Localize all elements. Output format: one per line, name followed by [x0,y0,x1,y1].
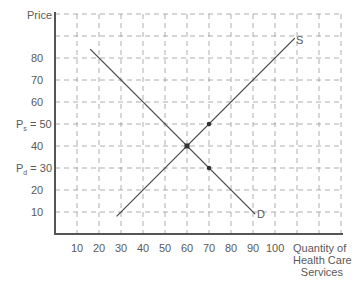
x-tick-100: 100 [266,242,284,254]
y-tick-40: 40 [31,140,43,152]
demand-label: D [257,208,265,220]
pd-point [207,166,212,171]
x-tick-30: 30 [115,242,127,254]
y-axis-label: Price [27,9,52,21]
x-tick-90: 90 [247,242,259,254]
x-tick-20: 20 [93,242,105,254]
supply-curve [117,38,295,216]
x-tick-80: 80 [225,242,237,254]
y-tick-60: 60 [31,96,43,108]
y-tick-70: 70 [31,74,43,86]
x-axis-label-line2: Health Care [293,254,343,266]
x-tick-10: 10 [71,242,83,254]
x-axis-label-line1: Quantity of [293,242,343,254]
x-tick-70: 70 [203,242,215,254]
x-tick-40: 40 [137,242,149,254]
grid [55,14,342,234]
x-tick-50: 50 [159,242,171,254]
pd-value: = 30 [27,162,52,174]
x-tick-60: 60 [181,242,193,254]
y-tick-80: 80 [31,52,43,64]
demand-curve [90,49,255,214]
ps-point [207,122,212,127]
equilibrium-point [185,144,190,149]
x-axis-label: Quantity of Health Care Services [293,242,343,278]
y-tick-20: 20 [31,184,43,196]
y-tick-pd: Pd = 30 [16,162,52,176]
y-tick-10: 10 [31,206,43,218]
y-tick-ps: Ps = 50 [16,118,52,132]
ps-value: = 50 [27,118,52,130]
x-axis-label-line3: Services [293,266,343,278]
supply-label: S [296,34,303,46]
